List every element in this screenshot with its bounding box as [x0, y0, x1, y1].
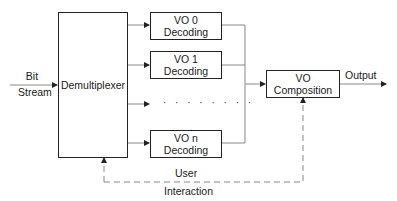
composition-label: Composition: [274, 84, 332, 96]
vo0-decoding-box: VO 0 Decoding: [150, 12, 222, 40]
vo0-label: VO 0: [174, 14, 198, 26]
ellipsis-dots: · · · · · · · ·: [163, 97, 254, 108]
vo1-decoding-label: Decoding: [164, 65, 208, 77]
von-decoding-box: VO n Decoding: [150, 130, 222, 158]
von-label: VO n: [174, 132, 198, 144]
vo-composition-box: VO Composition: [266, 70, 340, 98]
bit-stream-label: Bit Stream: [18, 70, 46, 98]
output-label: Output: [345, 69, 377, 81]
bit-label: Bit: [18, 70, 46, 82]
vo1-decoding-box: VO 1 Decoding: [150, 51, 222, 79]
composition-vo-label: VO: [295, 72, 310, 84]
vo1-label: VO 1: [174, 53, 198, 65]
demultiplexer-box: Demultiplexer: [58, 12, 128, 158]
stream-label: Stream: [18, 86, 46, 98]
vo0-decoding-label: Decoding: [164, 26, 208, 38]
user-label: User: [175, 167, 197, 179]
demultiplexer-label: Demultiplexer: [61, 79, 125, 91]
von-decoding-label: Decoding: [164, 144, 208, 156]
interaction-label: Interaction: [164, 185, 213, 197]
